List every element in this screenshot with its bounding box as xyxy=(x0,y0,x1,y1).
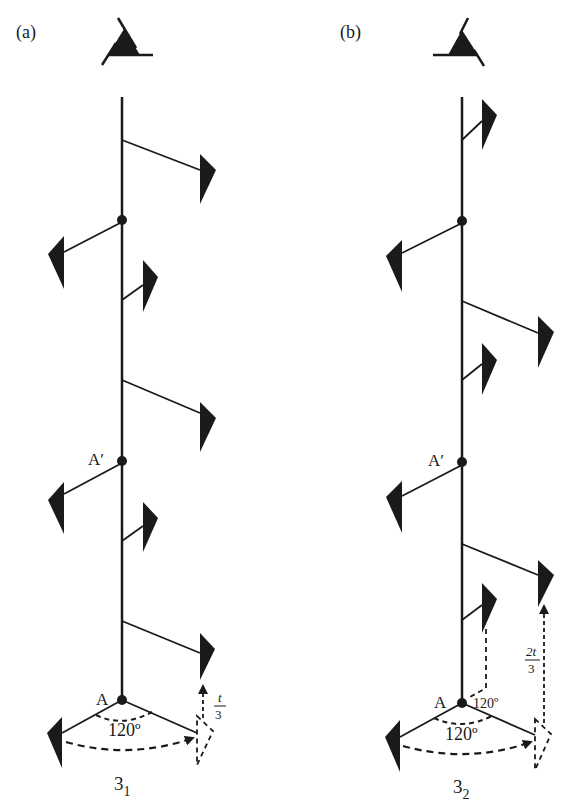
panel-a-label: (a) xyxy=(16,22,36,43)
angle-label-a: 120º xyxy=(108,720,141,740)
rotated-motif-ghost xyxy=(197,716,213,765)
label-a: A xyxy=(96,690,109,709)
motif-b xyxy=(462,583,497,633)
base-motif-b xyxy=(385,720,400,772)
panel-a: (a) A′ xyxy=(16,18,226,799)
caption-b: 32 xyxy=(453,776,470,802)
motif-a xyxy=(122,140,216,204)
translation-numerator-a: t xyxy=(218,690,222,705)
motif-a xyxy=(122,380,216,452)
screw-axis-diagram: (a) A′ xyxy=(0,0,582,809)
motif-b xyxy=(386,223,462,292)
panel-b-label: (b) xyxy=(340,22,361,43)
motif-a xyxy=(48,463,122,534)
threefold-screw-symbol-a xyxy=(102,18,153,65)
motif-a xyxy=(122,502,158,552)
base-motif xyxy=(47,717,62,768)
translation-numerator-b: 2t xyxy=(526,644,537,659)
motif-b xyxy=(462,544,554,607)
threefold-screw-symbol-b xyxy=(433,18,484,66)
motif-a xyxy=(122,260,158,312)
motif-b xyxy=(462,301,554,368)
rotated-motif-ghost-b xyxy=(535,719,551,770)
label-a-b: A xyxy=(434,693,447,712)
translation-denominator-a: 3 xyxy=(215,707,222,722)
label-a-prime-b: A′ xyxy=(428,451,444,470)
label-a-prime: A′ xyxy=(88,450,104,469)
panel-b: (b) A′ xyxy=(340,18,554,802)
caption-a: 31 xyxy=(114,773,131,799)
angle-label-b: 120º xyxy=(445,724,478,744)
translation-denominator-b: 3 xyxy=(528,661,535,676)
motif-a xyxy=(48,222,122,289)
motif-b xyxy=(462,343,497,395)
motif-b xyxy=(386,465,462,533)
motif-b xyxy=(462,99,497,150)
motif-a xyxy=(122,621,215,680)
